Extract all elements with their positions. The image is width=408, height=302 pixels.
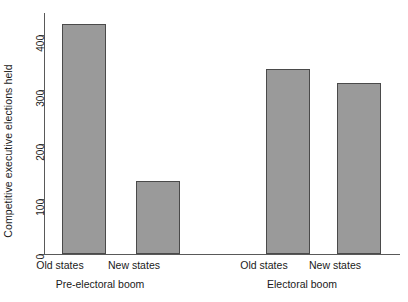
bar-electoral-new-states [337,83,381,254]
y-axis-title: Competitive executive elections held [0,0,16,302]
group-label-electoral-boom: Electoral boom [240,278,364,290]
group-label-pre-electoral-boom: Pre-electoral boom [38,278,162,290]
y-tick-label-300: 300 [36,90,46,107]
bar-electoral-old-states [266,69,310,254]
y-tick-label-200: 200 [36,144,46,161]
y-tick-label-100: 100 [36,199,46,216]
x-tick-label-pre-electoral-new-states: New states [96,259,172,271]
x-axis-line [44,254,400,255]
bar-pre-electoral-old-states [62,24,106,254]
bar-chart-figure: Competitive executive elections held 0 1… [0,0,408,302]
x-tick-label-pre-electoral-old-states: Old states [22,259,98,271]
x-tick-label-electoral-new-states: New states [297,259,373,271]
x-tick-label-electoral-old-states: Old states [226,259,302,271]
plot-area: 0 100 200 300 400 [44,13,400,254]
y-tick-label-400: 400 [36,35,46,52]
bar-pre-electoral-new-states [136,181,180,254]
